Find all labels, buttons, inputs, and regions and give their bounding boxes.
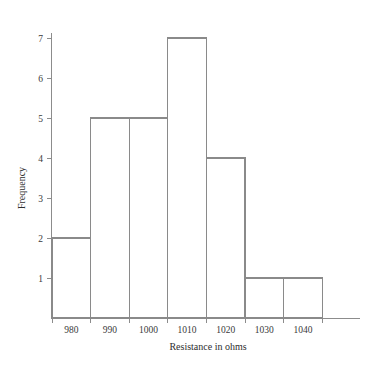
- y-tick-label-1: 1: [38, 274, 43, 284]
- histogram-plot: 1 2 3 4 5 6 7 980 990 1000 1010 1020 103…: [0, 0, 391, 365]
- x-axis-title: Resistance in ohms: [169, 341, 246, 352]
- bar-1030: [245, 278, 284, 318]
- x-tick-label-980: 980: [64, 325, 79, 335]
- bar-1010: [168, 38, 207, 318]
- y-axis-title: Frequency: [16, 167, 27, 209]
- y-tick-label-6: 6: [38, 74, 43, 84]
- x-tick-label-1020: 1020: [216, 325, 235, 335]
- y-tick-label-4: 4: [38, 154, 43, 164]
- x-tick-label-1040: 1040: [293, 325, 312, 335]
- y-tick-label-5: 5: [38, 114, 43, 124]
- y-tick-label-2: 2: [38, 234, 43, 244]
- histogram-figure: 1 2 3 4 5 6 7 980 990 1000 1010 1020 103…: [0, 0, 391, 365]
- bar-990: [91, 118, 130, 318]
- x-tick-label-1000: 1000: [139, 325, 158, 335]
- x-tick-label-1010: 1010: [178, 325, 197, 335]
- bar-980: [52, 238, 91, 318]
- y-tick-label-7: 7: [38, 34, 43, 44]
- x-tick-label-990: 990: [103, 325, 118, 335]
- bar-1000: [129, 118, 168, 318]
- y-tick-label-3: 3: [38, 194, 43, 204]
- bar-1020: [206, 158, 245, 318]
- bar-1040: [284, 278, 323, 318]
- x-tick-label-1030: 1030: [255, 325, 274, 335]
